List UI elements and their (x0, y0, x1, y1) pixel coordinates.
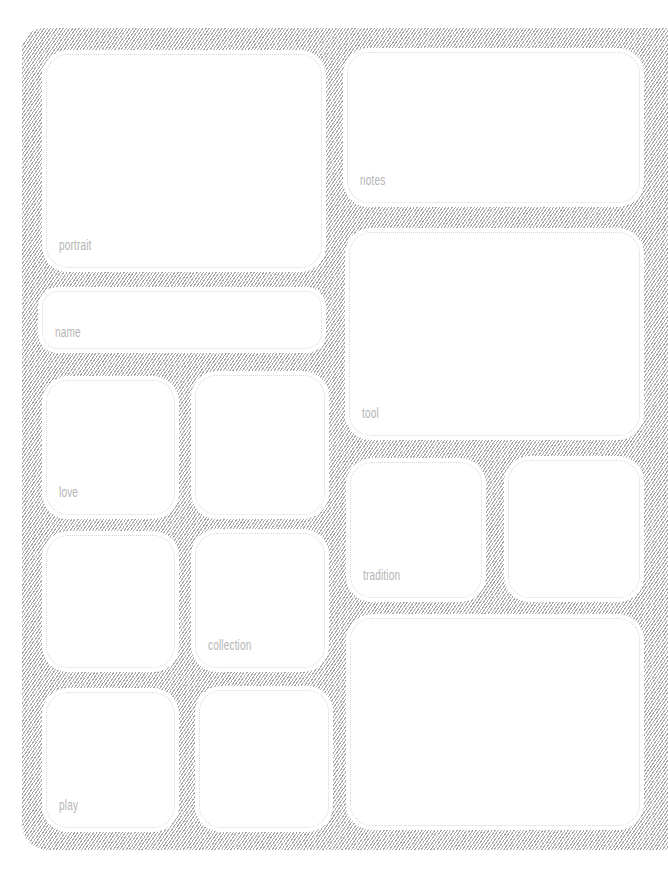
play-box[interactable]: play (46, 692, 175, 828)
portrait-box[interactable]: portrait (46, 54, 322, 268)
notes-box[interactable]: notes (347, 52, 640, 203)
collection-label: collection (208, 637, 251, 653)
tradition-box[interactable]: tradition (350, 462, 482, 598)
tradition-label: tradition (363, 567, 400, 583)
tool-box[interactable]: tool (349, 232, 640, 436)
collection-box[interactable]: collection (195, 533, 325, 668)
blank-box-4[interactable] (350, 618, 640, 826)
blank-box-3[interactable] (46, 535, 175, 668)
love-box[interactable]: love (46, 380, 175, 515)
blank-box-1[interactable] (195, 375, 325, 515)
play-label: play (59, 797, 78, 813)
name-box[interactable]: name (42, 291, 322, 349)
portrait-label: portrait (59, 237, 92, 253)
blank-box-2[interactable] (508, 460, 640, 598)
blank-box-5[interactable] (199, 690, 329, 828)
love-label: love (59, 484, 78, 500)
name-label: name (55, 324, 81, 340)
tool-label: tool (362, 405, 379, 421)
notes-label: notes (360, 172, 385, 188)
